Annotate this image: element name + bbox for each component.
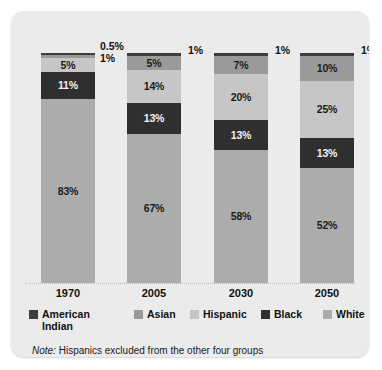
segment-hispanic-2050: 25% — [300, 81, 354, 138]
segment-asian-2050: 10% — [300, 56, 354, 81]
segment-black-2050: 13% — [300, 138, 354, 168]
segment-black-2005: 13% — [127, 103, 181, 134]
segment-asian-2005: 5% — [127, 56, 181, 70]
legend-label: Asian — [147, 308, 176, 320]
legend-label: Black — [274, 308, 302, 320]
segment-label: 52% — [317, 220, 338, 231]
x-tick-2030: 2030 — [214, 287, 268, 299]
note-prefix: Note: — [32, 345, 56, 356]
segment-black-1970: 11% — [41, 72, 95, 99]
segment-hispanic-1970: 5% — [41, 58, 95, 72]
segment-label: 83% — [58, 186, 79, 197]
legend-swatch-white-icon — [323, 310, 332, 319]
segment-label: 7% — [234, 60, 249, 71]
note-text: Hispanics excluded from the other four g… — [56, 345, 263, 356]
legend-swatch-hispanic-icon — [190, 310, 199, 319]
segment-hispanic-2030: 20% — [214, 74, 268, 120]
segment-white-1970: 83% — [41, 99, 95, 283]
segment-white-2050: 52% — [300, 168, 354, 283]
legend-item-black[interactable]: Black — [261, 308, 302, 320]
segment-label: 13% — [317, 148, 338, 159]
stacked-bar-2050: 1% 10% 25% 13% 52% — [300, 53, 354, 283]
segment-label: 13% — [144, 113, 165, 124]
callout-asian-1970: 1% — [100, 52, 115, 64]
plot-area: 0.5% 1% 5% 11% 83% 0.5% 1% — [11, 11, 369, 283]
stacked-bar-1970: 0.5% 1% 5% 11% 83% — [41, 53, 95, 283]
segment-label: 67% — [144, 203, 165, 214]
segment-label: 20% — [231, 92, 252, 103]
segment-label: 25% — [317, 104, 338, 115]
x-axis-baseline — [25, 283, 355, 285]
legend-swatch-black-icon — [261, 310, 270, 319]
chart-legend: American Indian Asian Hispanic Black Whi… — [29, 308, 359, 336]
legend-item-hispanic[interactable]: Hispanic — [190, 308, 247, 320]
segment-label: 10% — [317, 63, 338, 74]
segment-white-2005: 67% — [127, 134, 181, 283]
segment-label: 5% — [61, 60, 76, 71]
segment-label: 11% — [58, 80, 78, 91]
segment-label: 13% — [231, 130, 252, 141]
segment-label: 14% — [144, 81, 165, 92]
legend-swatch-asian-icon — [134, 310, 143, 319]
x-tick-2005: 2005 — [127, 287, 181, 299]
legend-label: Hispanic — [203, 308, 247, 320]
legend-item-asian[interactable]: Asian — [134, 308, 176, 320]
stacked-bar-2005: 1% 5% 14% 13% 67% — [127, 53, 181, 283]
legend-swatch-american-indian-icon — [29, 310, 38, 319]
legend-label: American Indian — [42, 308, 90, 332]
chart-card: 0.5% 1% 5% 11% 83% 0.5% 1% — [11, 11, 369, 357]
segment-black-2030: 13% — [214, 120, 268, 150]
callout-american-indian-2050: 1% — [361, 44, 369, 56]
segment-asian-2030: 7% — [214, 56, 268, 74]
segment-hispanic-2005: 14% — [127, 70, 181, 103]
stacked-bar-2030: 1% 7% 20% 13% 58% — [214, 53, 268, 283]
callout-american-indian-1970: 0.5% — [100, 40, 124, 52]
chart-note: Note: Hispanics excluded from the other … — [32, 345, 263, 356]
callout-american-indian-2005: 1% — [188, 44, 203, 56]
legend-item-white[interactable]: White — [323, 308, 365, 320]
legend-label: White — [336, 308, 365, 320]
x-tick-1970: 1970 — [41, 287, 95, 299]
segment-white-2030: 58% — [214, 150, 268, 283]
callout-american-indian-2030: 1% — [275, 44, 290, 56]
segment-label: 58% — [231, 211, 252, 222]
segment-label: 5% — [147, 58, 162, 69]
x-tick-2050: 2050 — [300, 287, 354, 299]
legend-item-american-indian[interactable]: American Indian — [29, 308, 90, 332]
